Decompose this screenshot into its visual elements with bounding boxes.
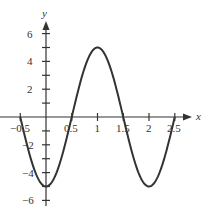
chart: y x 6 4 2 −2 −4 −6 −0.5 0.5 1 1.5 2 2.5 <box>0 0 210 216</box>
x-tick-label-neg0-5: −0.5 <box>10 122 30 134</box>
y-tick-label-neg6: −6 <box>22 194 34 206</box>
x-axis-arrow-icon <box>183 114 192 121</box>
y-tick-label-2: 2 <box>27 83 33 95</box>
x-tick-label-1: 1 <box>95 122 101 134</box>
x-axis-label: x <box>195 110 201 122</box>
y-tick-label-6: 6 <box>27 28 33 40</box>
y-axis-label: y <box>41 7 47 19</box>
y-axis-arrow-icon <box>43 21 50 30</box>
y-tick-label-neg4: −4 <box>22 167 34 179</box>
y-tick-label-4: 4 <box>27 55 33 67</box>
x-tick-label-1-5: 1.5 <box>116 122 130 134</box>
x-tick-label-2: 2 <box>146 122 152 134</box>
